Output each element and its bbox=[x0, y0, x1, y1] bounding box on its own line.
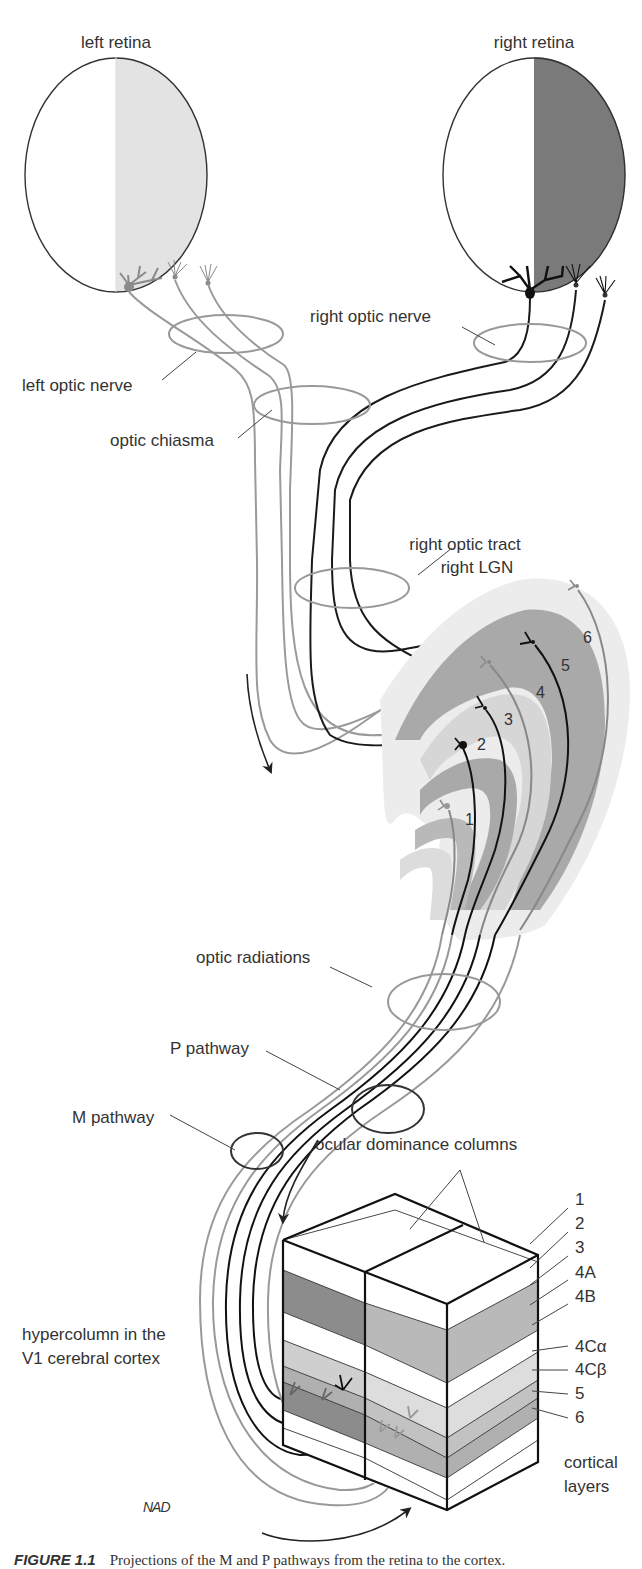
cortical-layer-4c-beta: 4Cβ bbox=[575, 1360, 607, 1379]
optic-chiasma-ellipse bbox=[254, 386, 370, 424]
hypercolumn-cube bbox=[283, 1194, 538, 1510]
cortical-layer-4a: 4A bbox=[575, 1263, 596, 1282]
cortical-layer-1: 1 bbox=[575, 1190, 584, 1209]
right-lgn-label: right LGN bbox=[441, 558, 514, 577]
optic-radiations-label: optic radiations bbox=[196, 948, 310, 967]
hypercolumn-label-line1: hypercolumn in the bbox=[22, 1325, 166, 1344]
lgn-layer-1 bbox=[400, 848, 452, 920]
right-lgn: 1 2 3 4 5 6 bbox=[380, 578, 630, 940]
cortical-layer-4c-alpha: 4Cα bbox=[575, 1337, 607, 1356]
hypercolumn-label-line2: V1 cerebral cortex bbox=[22, 1349, 160, 1368]
right-retina-temporal-half bbox=[534, 57, 625, 292]
left-retina-label: left retina bbox=[81, 33, 151, 52]
right-optic-nerve-label: right optic nerve bbox=[310, 307, 431, 326]
lgn-layer-number-2: 2 bbox=[477, 736, 486, 753]
figure-caption: FIGURE 1.1Projections of the M and P pat… bbox=[14, 1551, 634, 1569]
m-pathway-label: M pathway bbox=[72, 1108, 155, 1127]
ocular-dominance-columns-label: ocular dominance columns bbox=[315, 1135, 517, 1154]
cortical-layer-labels: 1 2 3 4A 4B 4Cα 4Cβ 5 6 bbox=[530, 1190, 607, 1427]
cortical-layer-6: 6 bbox=[575, 1408, 584, 1427]
figure-caption-text: Projections of the M and P pathways from… bbox=[110, 1552, 506, 1568]
m-pathway-ellipse bbox=[231, 1133, 283, 1169]
artist-signature: NAD bbox=[143, 1499, 170, 1515]
right-retina-label: right retina bbox=[494, 33, 575, 52]
left-retina-temporal-half bbox=[116, 57, 207, 292]
cortical-layers-label-line1: cortical bbox=[564, 1453, 618, 1472]
cortical-layers-label-line2: layers bbox=[564, 1477, 609, 1496]
lgn-layer-number-5: 5 bbox=[561, 657, 570, 674]
right-optic-tract-label: right optic tract bbox=[409, 535, 521, 554]
lgn-layer-number-4: 4 bbox=[536, 684, 545, 701]
lgn-layer-number-3: 3 bbox=[504, 711, 513, 728]
lgn-layer-number-1: 1 bbox=[465, 811, 474, 828]
optic-radiations-ellipse bbox=[388, 974, 500, 1030]
cortical-layer-3: 3 bbox=[575, 1238, 584, 1257]
lgn-layer-number-6: 6 bbox=[583, 629, 592, 646]
flow-arrow-lgn bbox=[247, 674, 270, 770]
left-optic-nerve-label: left optic nerve bbox=[22, 376, 133, 395]
left-retina bbox=[25, 57, 207, 292]
p-pathway-label: P pathway bbox=[170, 1039, 250, 1058]
cortical-layer-5: 5 bbox=[575, 1384, 584, 1403]
optic-chiasma-label: optic chiasma bbox=[110, 431, 214, 450]
right-retina bbox=[443, 57, 625, 292]
figure-number: FIGURE 1.1 bbox=[14, 1551, 96, 1568]
flow-arrow-cortex-out bbox=[262, 1510, 408, 1541]
cortical-layer-2: 2 bbox=[575, 1214, 584, 1233]
cortical-layer-4b: 4B bbox=[575, 1287, 596, 1306]
